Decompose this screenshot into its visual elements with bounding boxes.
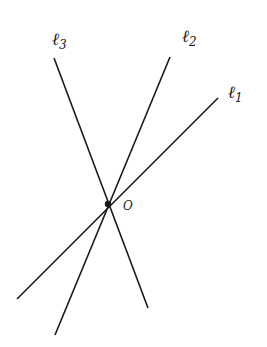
intersection-point-o	[105, 201, 111, 207]
label-point-o: O	[123, 199, 133, 213]
label-l1: ℓ1	[228, 82, 243, 105]
label-l3: ℓ3	[52, 29, 67, 52]
concurrent-lines-diagram: ℓ3 ℓ2 ℓ1 O	[0, 0, 267, 347]
line-l2	[55, 57, 170, 335]
line-l1	[17, 98, 218, 299]
label-l2: ℓ2	[182, 26, 197, 49]
